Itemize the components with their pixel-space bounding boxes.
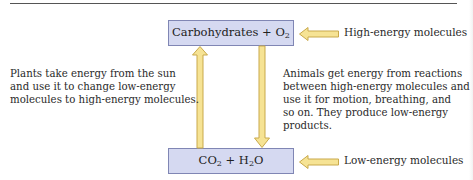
high-energy-label: High-energy molecules: [344, 26, 467, 38]
top-box-text: Carbohydrates + O: [172, 25, 285, 39]
down-arrow-icon: [254, 46, 270, 148]
carbohydrates-o2-box: Carbohydrates + O2: [168, 20, 294, 46]
plants-line: and use it to change low-energy: [10, 80, 199, 93]
bottom-box-co: CO: [199, 153, 217, 167]
top-rule: [10, 3, 457, 4]
left-arrow-icon: [299, 27, 339, 41]
top-box-subscript: 2: [285, 31, 290, 40]
co2-h2o-box: CO2 + H2O: [168, 148, 294, 174]
plants-description: Plants take energy from the sun and use …: [10, 67, 199, 106]
animals-line: products.: [283, 119, 470, 132]
left-arrow-icon: [299, 155, 339, 169]
bottom-box-o: O: [254, 153, 263, 167]
plants-line: molecules to high-energy molecules.: [10, 93, 199, 106]
plants-line: Plants take energy from the sun: [10, 67, 199, 80]
low-energy-label: Low-energy molecules: [344, 154, 463, 166]
animals-line: Animals get energy from reactions: [283, 67, 470, 80]
bottom-box-plus-h: + H: [222, 153, 249, 167]
animals-line: so on. They produce low-energy: [283, 106, 470, 119]
animals-line: between high-energy molecules and: [283, 80, 470, 93]
animals-line: use it for motion, breathing, and: [283, 93, 470, 106]
animals-description: Animals get energy from reactions betwee…: [283, 67, 470, 132]
